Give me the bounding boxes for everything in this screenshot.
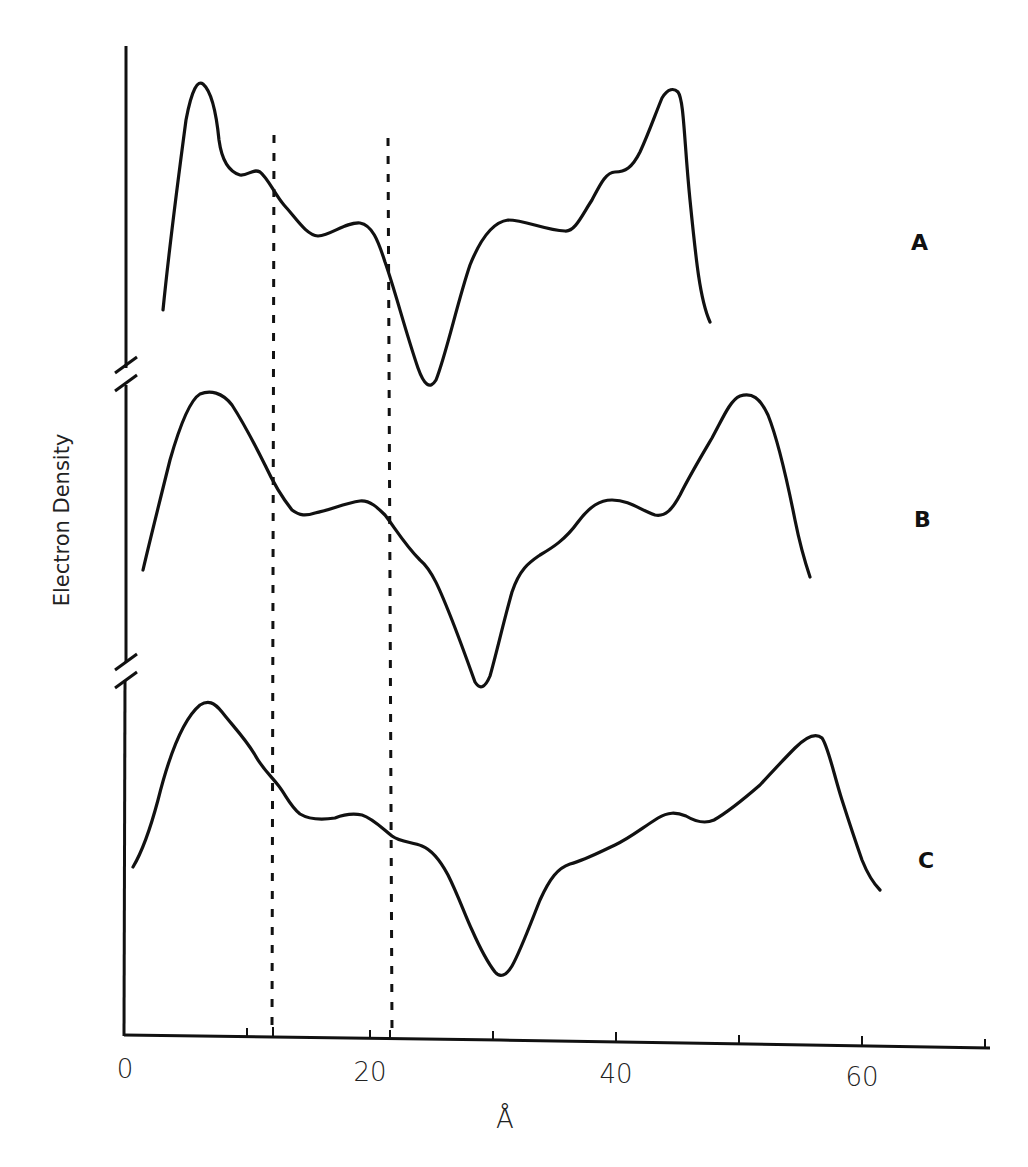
x-tick-label-40: 40 [599, 1059, 632, 1089]
series-label-c: C [918, 848, 934, 873]
curve-a [163, 83, 710, 385]
x-tick-label-0: 0 [117, 1054, 134, 1084]
x-axis-line [124, 1035, 990, 1048]
electron-density-chart: 0 20 40 60 Å Electron Density A B C [0, 0, 1028, 1167]
y-axis-segment-c [124, 680, 125, 1036]
x-tick-label-60: 60 [845, 1062, 878, 1092]
curve-b [143, 392, 810, 687]
series-label-b: B [914, 507, 931, 532]
series-label-a: A [911, 230, 928, 255]
x-axis-title: Å [496, 1102, 514, 1134]
x-tick-label-20: 20 [353, 1057, 386, 1087]
curve-c [133, 702, 880, 975]
y-axis [115, 46, 137, 1036]
x-axis: 0 20 40 60 Å [117, 1027, 990, 1134]
dashed-reference-line-12A [272, 135, 274, 1030]
y-axis-title: Electron Density [50, 434, 74, 607]
